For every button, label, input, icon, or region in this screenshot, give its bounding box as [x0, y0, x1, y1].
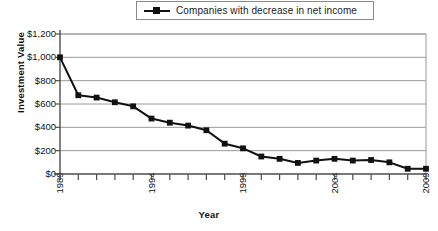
- series-data-point: [112, 99, 118, 105]
- chart-container: Companies with decrease in net income In…: [0, 0, 438, 231]
- series-data-point: [387, 159, 393, 165]
- series-data-point: [277, 156, 283, 162]
- series-data-point: [75, 92, 81, 98]
- series-line: [60, 57, 426, 168]
- series-data-point: [149, 116, 155, 122]
- series-data-point: [204, 127, 210, 133]
- series-data-point: [350, 158, 356, 164]
- series-data-point: [167, 120, 173, 126]
- series-data-point: [94, 95, 100, 101]
- series-data-point: [57, 54, 63, 60]
- series-data-point: [313, 158, 319, 164]
- series-data-point: [295, 160, 301, 166]
- series-data-point: [258, 154, 264, 160]
- series-data-point: [222, 141, 228, 147]
- series-data-point: [368, 157, 374, 163]
- series-data-point: [423, 166, 429, 172]
- series-data-point: [130, 103, 136, 109]
- series-data-point: [332, 156, 338, 162]
- plot-area: [0, 0, 438, 231]
- series-data-point: [405, 166, 411, 172]
- series-data-point: [185, 123, 191, 129]
- series-data-point: [240, 145, 246, 151]
